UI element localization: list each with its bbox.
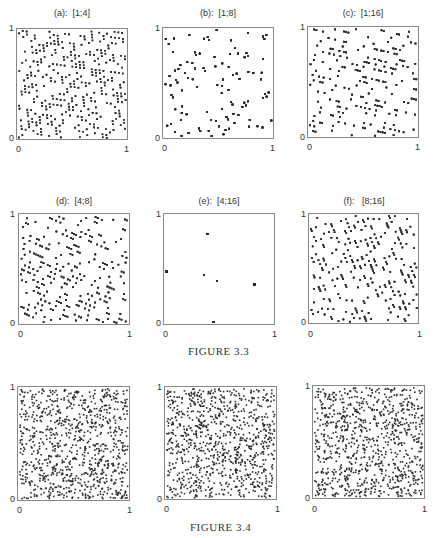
x-tick-max: 1 — [422, 505, 427, 514]
x-tick-max: 1 — [270, 144, 275, 153]
y-tick-max: 1 — [155, 24, 160, 33]
y-tick-max: 1 — [301, 210, 306, 219]
scatter-plot-a — [16, 28, 128, 140]
scatter-plot-f — [308, 213, 419, 324]
scatter-plot-e — [163, 213, 275, 325]
panel-title: (a): [1;4] — [16, 8, 128, 18]
y-tick-max: 1 — [9, 24, 14, 33]
scatter-plot-d — [18, 213, 130, 325]
x-tick-min: 0 — [308, 330, 313, 339]
scatter-plot-g — [17, 386, 130, 501]
y-tick-max: 1 — [305, 382, 310, 391]
y-tick-min: 0 — [10, 319, 15, 328]
x-tick-min: 0 — [18, 330, 23, 339]
y-tick-min: 0 — [156, 319, 161, 328]
y-tick-min: 0 — [301, 318, 306, 327]
panel-title: (e): [4;16] — [163, 196, 275, 206]
y-tick-min: 0 — [155, 134, 160, 143]
panel-title: (f): [8;16] — [308, 196, 420, 206]
y-tick-max: 1 — [10, 210, 15, 219]
scatter-plot-i — [312, 385, 425, 499]
y-tick-min: 0 — [157, 495, 162, 504]
y-tick-min: 0 — [9, 134, 14, 143]
y-tick-max: 1 — [10, 383, 15, 392]
y-tick-max: 1 — [300, 23, 305, 32]
x-tick-max: 1 — [275, 505, 280, 514]
y-tick-min: 0 — [305, 494, 310, 503]
x-tick-max: 1 — [272, 330, 277, 339]
y-tick-min: 0 — [300, 133, 305, 142]
x-tick-min: 0 — [163, 330, 168, 339]
figure-caption-3-4: FIGURE 3.4 — [190, 521, 251, 533]
x-tick-max: 1 — [127, 506, 132, 515]
y-tick-max: 1 — [157, 383, 162, 392]
x-tick-min: 0 — [307, 143, 312, 152]
y-tick-max: 1 — [156, 210, 161, 219]
x-tick-min: 0 — [16, 145, 21, 154]
x-tick-max: 1 — [417, 330, 422, 339]
x-tick-min: 0 — [164, 505, 169, 514]
x-tick-max: 1 — [415, 143, 420, 152]
figure-caption-3-3: FIGURE 3.3 — [188, 345, 249, 357]
x-tick-min: 0 — [312, 505, 317, 514]
x-tick-min: 0 — [162, 144, 167, 153]
scatter-plot-h — [164, 386, 277, 500]
x-tick-max: 1 — [127, 330, 132, 339]
y-tick-min: 0 — [10, 495, 15, 504]
panel-title: (b): [1;8] — [162, 8, 274, 18]
panel-title: (c): [1;16] — [307, 8, 419, 18]
scatter-plot-c — [307, 26, 419, 138]
panel-title: (d): [4;8] — [18, 196, 130, 206]
x-tick-min: 0 — [17, 506, 22, 515]
scatter-plot-b — [162, 27, 274, 139]
x-tick-max: 1 — [124, 145, 129, 154]
